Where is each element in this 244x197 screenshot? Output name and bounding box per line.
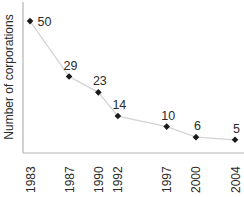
data-point-label: 6 — [194, 119, 201, 133]
x-tick-label: 1983 — [24, 166, 38, 193]
x-tick-label: 1990 — [92, 166, 106, 193]
line-chart-canvas: 5029231410651983198719901992199720002004… — [0, 0, 244, 197]
data-point-label: 14 — [112, 98, 126, 112]
x-tick-label: 2000 — [189, 166, 203, 193]
data-point-label: 23 — [93, 74, 107, 88]
data-point-label: 10 — [161, 109, 175, 123]
data-series-line — [30, 21, 235, 140]
data-point-marker — [193, 134, 200, 141]
y-axis-label: Number of corporations — [2, 14, 16, 139]
x-tick-label: 1992 — [111, 166, 125, 193]
data-point-marker — [232, 137, 239, 144]
data-point-marker — [163, 123, 170, 130]
x-tick-label: 2004 — [229, 166, 243, 193]
corporations-line-chart-figure: 5029231410651983198719901992199720002004… — [0, 0, 244, 197]
data-point-label: 50 — [38, 15, 52, 29]
data-point-label: 5 — [233, 122, 240, 136]
x-tick-label: 1987 — [63, 166, 77, 193]
x-tick-label: 1997 — [160, 166, 174, 193]
data-point-label: 29 — [64, 59, 78, 73]
